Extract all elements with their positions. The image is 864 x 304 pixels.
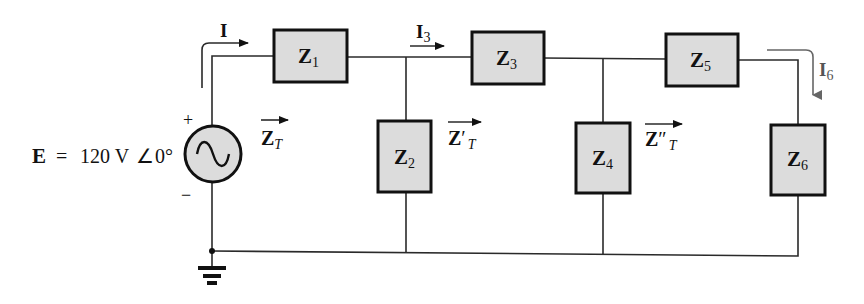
- zt-double-prime-label: Z″T: [645, 124, 682, 153]
- current-i3-arrow: I3: [410, 21, 444, 46]
- plus-sign: +: [183, 110, 193, 130]
- ground-icon: [198, 248, 226, 285]
- circuit-diagram: + − E = 120 V ∠ 0° I I3 I6 Z1 Z2 Z3 Z4: [0, 0, 864, 304]
- impedance-z3: Z3: [472, 32, 544, 84]
- wires: [212, 56, 798, 268]
- impedance-z6: Z6: [771, 125, 825, 195]
- svg-text:Z′T: Z′T: [448, 127, 477, 152]
- source-angle: 0°: [155, 145, 173, 167]
- impedance-z1: Z1: [274, 30, 347, 82]
- source-symbol: E: [32, 144, 46, 168]
- ac-voltage-source: + −: [181, 110, 241, 205]
- impedance-z2: Z2: [378, 121, 431, 192]
- current-i-arrow: I: [202, 20, 248, 88]
- zt-label: ZT: [261, 120, 288, 152]
- equals-sign: =: [56, 145, 67, 167]
- zt-prime-label: Z′T: [448, 122, 481, 152]
- current-i-label: I: [220, 20, 227, 41]
- source-label: E = 120 V ∠ 0°: [32, 144, 173, 168]
- svg-text:ZT: ZT: [261, 127, 283, 152]
- impedance-z5: Z5: [666, 34, 738, 86]
- svg-text:Z″T: Z″T: [645, 128, 678, 153]
- angle-symbol: ∠: [136, 145, 154, 167]
- current-i6-arrow: I6: [767, 50, 833, 95]
- minus-sign: −: [181, 185, 191, 205]
- current-i6-label: I6: [819, 59, 833, 83]
- current-i3-label: I3: [416, 21, 430, 45]
- impedance-z4: Z4: [576, 123, 630, 193]
- source-magnitude: 120 V: [80, 145, 130, 167]
